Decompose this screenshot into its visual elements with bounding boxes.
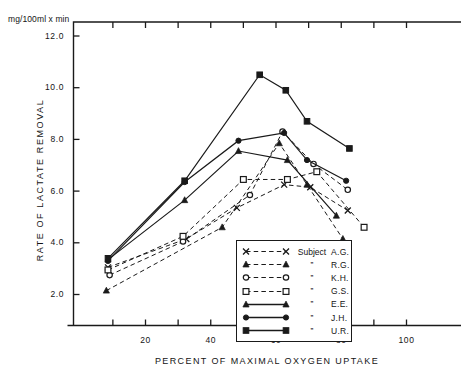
data-point-marker — [283, 315, 288, 320]
legend-subject-label: ” — [295, 326, 329, 336]
data-point-marker — [182, 178, 188, 184]
legend-subject-label: ” — [295, 313, 329, 323]
data-point-marker — [180, 233, 186, 239]
data-point-marker — [243, 275, 248, 280]
legend-subject-initials: R.G. — [329, 260, 350, 270]
y-tick-label: 12.0 — [20, 31, 64, 41]
y-tick-label: 2.0 — [20, 289, 64, 299]
data-point-marker — [283, 275, 288, 280]
legend-subject-initials: A.G. — [329, 247, 349, 257]
legend-row: ”R.G. — [241, 258, 348, 271]
y-tick-label: 8.0 — [20, 134, 64, 144]
legend-subject-initials: U.R. — [329, 326, 349, 336]
legend-subject-label: Subject — [295, 247, 329, 257]
y-tick-label: 4.0 — [20, 237, 64, 247]
chart-legend: SubjectA.G.”R.G.”K.H.”G.S.”E.E.”J.H.”U.R… — [236, 240, 352, 342]
legend-row: SubjectA.G. — [241, 245, 348, 258]
legend-line-sample — [241, 285, 295, 298]
data-point-marker — [282, 130, 287, 135]
data-point-marker — [236, 138, 241, 143]
legend-row: ”G.S. — [241, 285, 348, 298]
data-point-marker — [283, 249, 289, 255]
data-point-marker — [283, 261, 289, 267]
data-point-marker — [344, 178, 349, 183]
data-point-marker — [304, 119, 310, 125]
data-point-marker — [243, 328, 249, 334]
data-point-marker — [247, 192, 252, 197]
data-point-marker — [276, 140, 282, 146]
legend-marker-icon — [241, 311, 295, 324]
data-point-marker — [314, 169, 320, 175]
legend-line-sample — [241, 298, 295, 311]
data-point-marker — [105, 267, 111, 273]
y-axis-title: RATE OF LACTATE REMOVAL — [35, 80, 45, 280]
legend-line-sample — [241, 258, 295, 271]
data-point-marker — [243, 288, 249, 294]
legend-marker-icon — [241, 298, 295, 311]
data-point-marker — [105, 256, 111, 262]
legend-subject-label: ” — [295, 286, 329, 296]
data-point-marker — [345, 187, 350, 192]
legend-subject-label: ” — [295, 260, 329, 270]
data-point-marker — [283, 328, 289, 334]
data-point-marker — [361, 224, 367, 230]
data-point-marker — [243, 315, 248, 320]
data-point-marker — [283, 87, 289, 93]
legend-marker-icon — [241, 271, 295, 284]
legend-line-sample — [241, 324, 295, 337]
legend-row: ”K.H. — [241, 271, 348, 284]
y-tick-label: 10.0 — [20, 82, 64, 92]
x-tick-label: 100 — [387, 335, 427, 345]
legend-subject-initials: J.H. — [329, 313, 348, 323]
legend-line-sample — [241, 245, 295, 258]
legend-subject-initials: G.S. — [329, 286, 349, 296]
y-axis-ticks — [74, 36, 80, 295]
data-point-marker — [235, 148, 241, 154]
data-point-marker — [285, 177, 291, 183]
legend-row: ”U.R. — [241, 324, 348, 337]
y-tick-label: 6.0 — [20, 186, 64, 196]
legend-subject-label: ” — [295, 273, 329, 283]
legend-row: ”E.E. — [241, 298, 348, 311]
legend-subject-label: ” — [295, 299, 329, 309]
legend-marker-icon — [241, 324, 295, 337]
y-axis-unit-label: mg/100ml x min — [8, 14, 69, 24]
legend-line-sample — [241, 271, 295, 284]
legend-marker-icon — [241, 258, 295, 271]
x-axis-title: PERCENT OF MAXIMAL OXYGEN UPTAKE — [73, 356, 461, 366]
figure-lactate-removal-chart: mg/100ml x min RATE OF LACTATE REMOVAL P… — [0, 0, 472, 382]
x-tick-label: 20 — [126, 335, 166, 345]
data-point-marker — [283, 288, 289, 294]
legend-row: ”J.H. — [241, 311, 348, 324]
data-point-marker — [240, 177, 246, 183]
legend-marker-icon — [241, 245, 295, 258]
x-tick-label: 40 — [191, 335, 231, 345]
data-point-marker — [103, 287, 109, 293]
legend-line-sample — [241, 311, 295, 324]
data-point-marker — [257, 72, 263, 78]
legend-marker-icon — [241, 285, 295, 298]
data-point-marker — [304, 157, 309, 162]
legend-subject-initials: K.H. — [329, 273, 349, 283]
legend-subject-initials: E.E. — [329, 299, 348, 309]
data-point-marker — [347, 146, 353, 152]
